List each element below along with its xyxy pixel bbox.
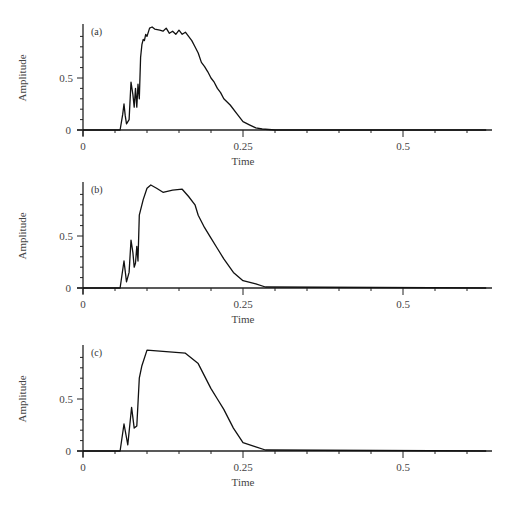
panel-b: 00.500.250.5TimeAmplitude(b) (16, 182, 492, 325)
amplitude-series-line (83, 350, 486, 451)
panel-label: (c) (91, 347, 102, 359)
x-tick-label-0.5: 0.5 (396, 140, 410, 152)
y-axis-label: Amplitude (16, 375, 28, 422)
x-tick-label-0.5: 0.5 (396, 298, 410, 310)
y-tick-label-0: 0 (66, 445, 72, 457)
x-tick-label-0: 0 (80, 461, 86, 473)
x-tick-label-0.25: 0.25 (233, 298, 253, 310)
y-tick-label-0: 0 (66, 124, 72, 136)
panel-a: 00.500.250.5TimeAmplitude(a) (16, 24, 492, 167)
panel-label: (a) (91, 26, 102, 38)
x-tick-label-0.25: 0.25 (233, 461, 253, 473)
amplitude-series-line (83, 27, 486, 130)
x-axis-label: Time (232, 313, 255, 325)
x-axis-label: Time (232, 155, 255, 167)
y-tick-label-0.5: 0.5 (59, 393, 73, 405)
x-axis-label: Time (232, 476, 255, 488)
amplitude-series-line (83, 185, 486, 288)
panel-c: 00.500.250.5TimeAmplitude(c) (16, 345, 492, 488)
y-tick-label-0.5: 0.5 (59, 72, 73, 84)
x-tick-label-0: 0 (80, 298, 86, 310)
y-axis-label: Amplitude (16, 212, 28, 259)
x-tick-label-0.5: 0.5 (396, 461, 410, 473)
panel-label: (b) (91, 184, 103, 196)
y-tick-label-0.5: 0.5 (59, 230, 73, 242)
x-tick-label-0.25: 0.25 (233, 140, 253, 152)
x-tick-label-0: 0 (80, 140, 86, 152)
y-tick-label-0: 0 (66, 282, 72, 294)
amplitude-time-figure: 00.500.250.5TimeAmplitude(a)00.500.250.5… (0, 0, 509, 505)
y-axis-label: Amplitude (16, 54, 28, 101)
